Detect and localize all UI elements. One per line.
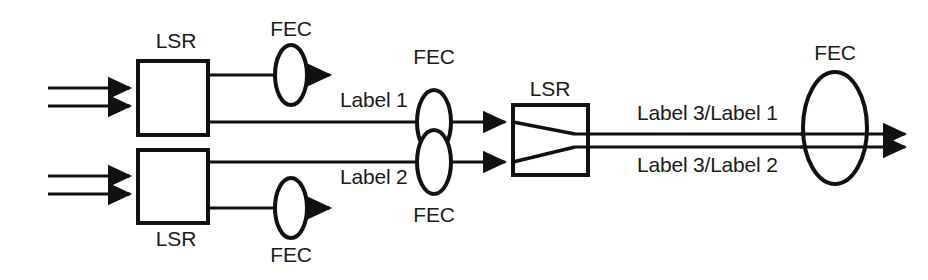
link-label-3-label-1: Label 3/Label 1	[637, 101, 778, 124]
fec-ellipse-bottom-left	[275, 178, 307, 238]
fec-ellipse-label2	[417, 130, 451, 194]
link-label-2: Label 2	[340, 165, 408, 188]
link-merged-output	[575, 134, 835, 147]
lsr-box-bottom-left	[138, 150, 208, 223]
fec-bottom-left-label: FEC	[270, 243, 311, 266]
ingress-arrows-top	[48, 88, 130, 106]
ingress-arrows-bottom	[48, 176, 130, 194]
lsr-top-left-label: LSR	[156, 29, 196, 52]
fec-label1-label: FEC	[413, 45, 454, 68]
lsr-box-middle	[513, 105, 588, 175]
link-label-3-label-2: Label 3/Label 2	[637, 153, 778, 176]
diagram-canvas: LSR FEC Label 1 FEC LSR Label 2	[0, 0, 928, 280]
fec-ellipse-output	[803, 72, 867, 184]
fec-output-label: FEC	[814, 41, 855, 64]
fec-ellipse-top-left	[275, 45, 307, 105]
fec-top-left-label: FEC	[270, 17, 311, 40]
lsr-bottom-left-label: LSR	[156, 227, 196, 250]
lsr-box-top-left	[138, 61, 208, 135]
link-label-1: Label 1	[340, 88, 408, 111]
fec-label2-label: FEC	[413, 203, 454, 226]
network-diagram: LSR FEC Label 1 FEC LSR Label 2	[0, 0, 928, 280]
lsr-middle-label: LSR	[530, 77, 570, 100]
